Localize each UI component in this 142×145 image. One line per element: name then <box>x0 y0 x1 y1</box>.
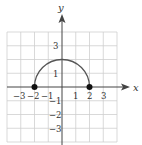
y-tick-label: −1 <box>49 96 62 106</box>
endpoint-right <box>87 84 93 90</box>
y-tick-label: −3 <box>49 124 62 134</box>
x-tick-label: 1 <box>73 91 78 101</box>
y-tick-label: 3 <box>53 41 58 51</box>
semicircle-graph: x y −3 −2 −1 1 2 3 3 1 −1 −2 −3 <box>0 0 142 145</box>
x-tick-label: 2 <box>87 91 92 101</box>
y-tick-label: 1 <box>53 69 58 79</box>
x-tick-label: −2 <box>27 91 40 101</box>
y-tick-label: −2 <box>49 110 62 120</box>
y-axis-label: y <box>57 2 64 13</box>
endpoint-left <box>32 84 38 90</box>
x-tick-label: −3 <box>13 91 26 101</box>
x-axis-label: x <box>133 82 139 93</box>
axes <box>7 20 124 145</box>
x-tick-label: 3 <box>101 91 106 101</box>
